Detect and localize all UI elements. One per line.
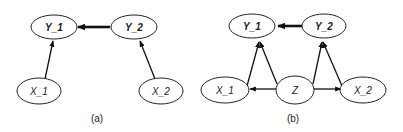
node-label: Z <box>291 85 299 96</box>
edge-b-x2-y2 <box>323 42 342 86</box>
node-b-x2: X_2 <box>340 77 386 103</box>
node-a-x1: X_1 <box>17 78 61 104</box>
caption-b: (b) <box>287 113 299 124</box>
node-label: Y_2 <box>315 21 333 32</box>
edge-b-z-y2 <box>313 42 322 84</box>
node-label: X_2 <box>353 85 372 96</box>
caption-a: (a) <box>91 113 103 124</box>
edge-a-x1-y1 <box>45 41 53 79</box>
node-label: X_1 <box>215 85 234 96</box>
panel-b: Y_1 Y_2 X_1 Z X_2 (b) <box>201 14 386 124</box>
node-label: Y_1 <box>45 22 63 33</box>
node-label: Y_1 <box>243 21 261 32</box>
node-b-y2: Y_2 <box>302 14 346 38</box>
node-b-x1: X_1 <box>201 77 249 103</box>
edge-b-x1-y1 <box>247 42 259 86</box>
edge-a-x2-y2 <box>140 41 155 79</box>
node-label: X_1 <box>29 86 48 97</box>
panel-a: Y_1 Y_2 X_1 X_2 (a) <box>17 15 183 124</box>
node-b-z: Z <box>276 76 314 104</box>
node-a-y2: Y_2 <box>111 15 157 39</box>
node-a-y1: Y_1 <box>31 15 77 39</box>
edge-b-z-y1 <box>260 42 277 84</box>
node-a-x2: X_2 <box>139 78 183 104</box>
node-label: Y_2 <box>125 22 143 33</box>
node-label: X_2 <box>151 86 170 97</box>
diagram-canvas: Y_1 Y_2 X_1 X_2 (a) Y_1 Y_2 <box>0 0 403 132</box>
node-b-y1: Y_1 <box>229 14 275 38</box>
